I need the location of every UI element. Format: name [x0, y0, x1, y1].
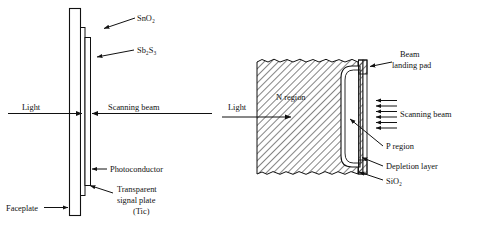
label-photoconductor: Photoconductor — [110, 165, 163, 174]
transparent-signal-plate-leader — [90, 186, 113, 194]
label-transparent-signal-plate-3: (Tic) — [133, 207, 150, 216]
label-beam-landing-pad: Beam — [400, 50, 420, 59]
sio2-layer — [359, 60, 364, 174]
label-sb2s3: Sb₂S₃ — [137, 46, 156, 55]
sio2-leader — [359, 172, 383, 180]
outer-plate — [363, 60, 367, 174]
label-transparent-signal-plate-2: signal plate — [117, 196, 156, 205]
beam-landing-pad-leader — [370, 62, 392, 67]
sno2-layer — [81, 28, 86, 196]
sno2-leader — [104, 18, 135, 29]
label-scanning-beam-right: Scanning beam — [400, 110, 452, 119]
sb2s3-leader — [97, 50, 134, 57]
label-n-region: N region — [276, 93, 306, 102]
depletion-layer-outline — [345, 70, 360, 163]
diagram-svg: SnO₂ Sb₂S₃ Light Scanning beam Photocond… — [0, 0, 477, 236]
label-faceplate: Faceplate — [6, 204, 38, 213]
label-light-left: Light — [22, 103, 41, 112]
label-beam-landing-pad-2: landing pad — [392, 61, 432, 70]
label-depletion-layer: Depletion layer — [386, 162, 438, 171]
label-light-right: Light — [228, 103, 247, 112]
faceplate-slab — [70, 9, 81, 216]
beam-landing-pad-top — [359, 60, 368, 74]
sb2s3-photoconductor-layer — [85, 38, 91, 186]
right-diagram-group: Beam landing pad N region Light Scanning… — [222, 50, 452, 186]
label-scanning-beam-left: Scanning beam — [108, 103, 160, 112]
label-sio2: SiO₂ — [386, 177, 402, 186]
left-diagram-group: SnO₂ Sb₂S₃ Light Scanning beam Photocond… — [6, 9, 212, 217]
figure-canvas: SnO₂ Sb₂S₃ Light Scanning beam Photocond… — [0, 0, 477, 236]
label-transparent-signal-plate: Transparent — [117, 185, 157, 194]
label-p-region: P region — [386, 142, 415, 151]
scanning-beam-arrows — [376, 101, 397, 129]
label-sno2: SnO₂ — [137, 14, 155, 23]
